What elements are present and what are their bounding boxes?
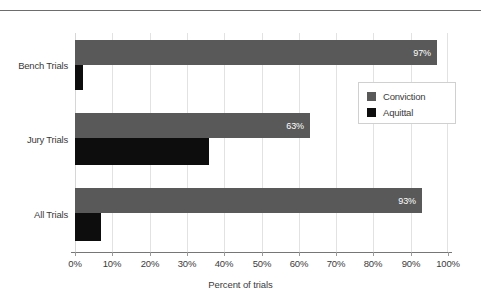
bar-label-all-conviction: 93% — [398, 196, 416, 205]
legend-swatch-aquittal-icon — [367, 108, 376, 117]
bar-all-conviction[interactable]: 93% — [75, 188, 422, 213]
chart-figure: 97% 63% 93% Bench Trials Jury Trials All… — [0, 0, 481, 304]
x-tick-label-60: 60% — [290, 258, 308, 269]
bar-bench-conviction[interactable]: 97% — [75, 40, 437, 65]
x-tick-30 — [187, 252, 188, 256]
x-tick-label-10: 10% — [103, 258, 121, 269]
legend-label-aquittal: Aquittal — [383, 107, 413, 118]
legend-swatch-conviction-icon — [367, 92, 376, 101]
x-tick-label-70: 70% — [327, 258, 345, 269]
chart-legend[interactable]: Conviction Aquittal — [358, 82, 456, 124]
x-tick-90 — [411, 252, 412, 256]
gridline-70 — [336, 33, 337, 252]
x-tick-60 — [299, 252, 300, 256]
bar-label-bench-conviction: 97% — [413, 48, 431, 57]
x-tick-80 — [373, 252, 374, 256]
x-tick-label-50: 50% — [253, 258, 271, 269]
x-tick-label-40: 40% — [215, 258, 233, 269]
category-label-jury-trials: Jury Trials — [0, 134, 68, 145]
x-tick-label-0: 0% — [68, 258, 81, 269]
legend-item-aquittal[interactable]: Aquittal — [367, 105, 413, 119]
gridline-100 — [447, 33, 448, 252]
x-tick-50 — [262, 252, 263, 256]
gridline-50 — [262, 33, 263, 252]
gridline-80 — [373, 33, 374, 252]
x-tick-label-90: 90% — [402, 258, 420, 269]
bar-jury-conviction[interactable]: 63% — [75, 113, 310, 138]
bar-bench-aquittal[interactable] — [75, 65, 83, 90]
bar-label-jury-conviction: 63% — [286, 121, 304, 130]
plot-area: 97% 63% 93% — [75, 33, 448, 252]
x-tick-label-100: 100% — [436, 258, 460, 269]
bar-all-aquittal[interactable] — [75, 213, 101, 241]
x-tick-20 — [150, 252, 151, 256]
x-tick-label-30: 30% — [178, 258, 196, 269]
x-tick-0 — [75, 252, 76, 256]
legend-item-conviction[interactable]: Conviction — [367, 89, 425, 103]
gridline-60 — [299, 33, 300, 252]
category-axis-labels: Bench Trials Jury Trials All Trials — [0, 33, 68, 252]
bar-jury-aquittal[interactable] — [75, 138, 209, 165]
gridline-90 — [411, 33, 412, 252]
top-divider-rule — [0, 10, 481, 11]
legend-label-conviction: Conviction — [383, 91, 425, 102]
x-tick-label-80: 80% — [364, 258, 382, 269]
x-axis-title: Percent of trials — [0, 279, 481, 290]
category-label-all-trials: All Trials — [0, 209, 68, 220]
x-tick-100 — [448, 252, 449, 256]
gridline-40 — [224, 33, 225, 252]
category-label-bench-trials: Bench Trials — [0, 60, 68, 71]
x-tick-70 — [336, 252, 337, 256]
x-tick-40 — [224, 252, 225, 256]
x-tick-10 — [112, 252, 113, 256]
x-tick-label-20: 20% — [141, 258, 159, 269]
